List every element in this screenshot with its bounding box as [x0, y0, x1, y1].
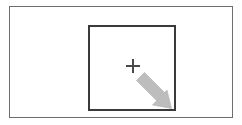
canvas-frame: [9, 6, 233, 118]
illustration-canvas: Selection resize illustration: [0, 0, 242, 125]
figure-title: Selection resize illustration: [0, 0, 1, 1]
resize-arrow-icon[interactable]: [134, 68, 178, 114]
